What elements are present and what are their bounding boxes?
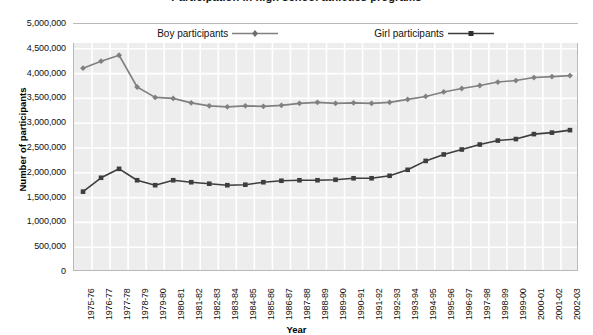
x-axis-tick-label: 1987-88 [302, 288, 312, 320]
x-axis-tick-label: 1996-97 [464, 288, 474, 320]
x-axis-tick-label: 2000-01 [536, 288, 546, 320]
x-axis-tick-label: 1993-94 [410, 288, 420, 320]
x-axis-tick-label: 1983-84 [230, 288, 240, 320]
x-axis-tick-label: 1988-89 [320, 288, 330, 320]
x-axis-tick-label: 1977-78 [122, 288, 132, 320]
x-axis-tick-label: 1982-83 [212, 288, 222, 320]
x-axis-tick-label: 1980-81 [176, 288, 186, 320]
x-axis-tick-label: 1981-82 [194, 288, 204, 320]
x-axis-tick-label: 1976-77 [104, 288, 114, 320]
x-axis-tick-label: 1995-96 [446, 288, 456, 320]
x-axis-tick-label: 1999-00 [518, 288, 528, 320]
x-axis-tick-label: 1990-91 [356, 288, 366, 320]
x-axis-tick-label: 1994-95 [428, 288, 438, 320]
x-axis-tick-label: 1984-85 [248, 288, 258, 320]
x-axis-tick-label: 1997-98 [482, 288, 492, 320]
x-axis-tick-label: 1991-92 [374, 288, 384, 320]
x-axis-tick-label: 1978-79 [140, 288, 150, 320]
x-axis-tick-label: 2001-02 [554, 288, 564, 320]
x-axis-tick-label: 1989-90 [338, 288, 348, 320]
x-axis-tick-label: 1998-99 [500, 288, 510, 320]
x-axis-tick-label: 2002-03 [572, 288, 582, 320]
x-axis-tick-label: 1992-93 [392, 288, 402, 320]
x-axis-tick-label: 1975-76 [86, 288, 96, 320]
x-axis-tick-label: 1979-80 [158, 288, 168, 320]
x-axis-tick-label: 1985-86 [266, 288, 276, 320]
x-axis-title: Year [0, 324, 593, 335]
x-axis-tick-label: 1986-87 [284, 288, 294, 320]
